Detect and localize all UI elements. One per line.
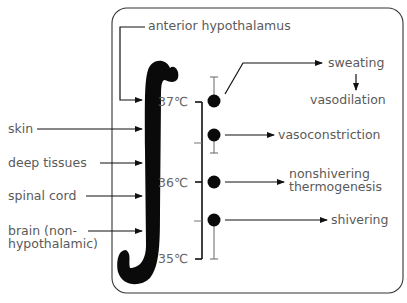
integrator-label: anterior hypothalamus: [148, 19, 291, 33]
response-shivering-label: shivering: [331, 213, 388, 227]
input-skin-label: skin: [8, 122, 33, 136]
sweating-threshold-dot: [208, 95, 221, 108]
tick-35c: 35℃: [158, 251, 188, 266]
sweating-arrow: [225, 63, 322, 94]
response-nonshivering-label-line2: thermogenesis: [289, 180, 382, 194]
input-spinal-cord-label: spinal cord: [8, 189, 76, 203]
response-vasoconstriction-label: vasoconstriction: [278, 128, 381, 142]
response-vasodilation-label: vasodilation: [310, 93, 386, 107]
shivering-threshold-dot: [208, 214, 221, 227]
nonshivering-threshold-dot: [208, 176, 221, 189]
diagram-canvas: [0, 0, 407, 303]
tick-36c: 36℃: [158, 175, 188, 190]
tick-37c: 37℃: [158, 94, 188, 109]
temperature-scale: [195, 102, 202, 259]
hypothalamus-leader-arrow: [120, 27, 145, 100]
vasoconstriction-threshold-dot: [208, 129, 221, 142]
input-deep-tissues-label: deep tissues: [8, 156, 87, 170]
response-sweating-label: sweating: [328, 56, 384, 70]
input-brain-label-line2: hypothalamic): [8, 237, 98, 251]
